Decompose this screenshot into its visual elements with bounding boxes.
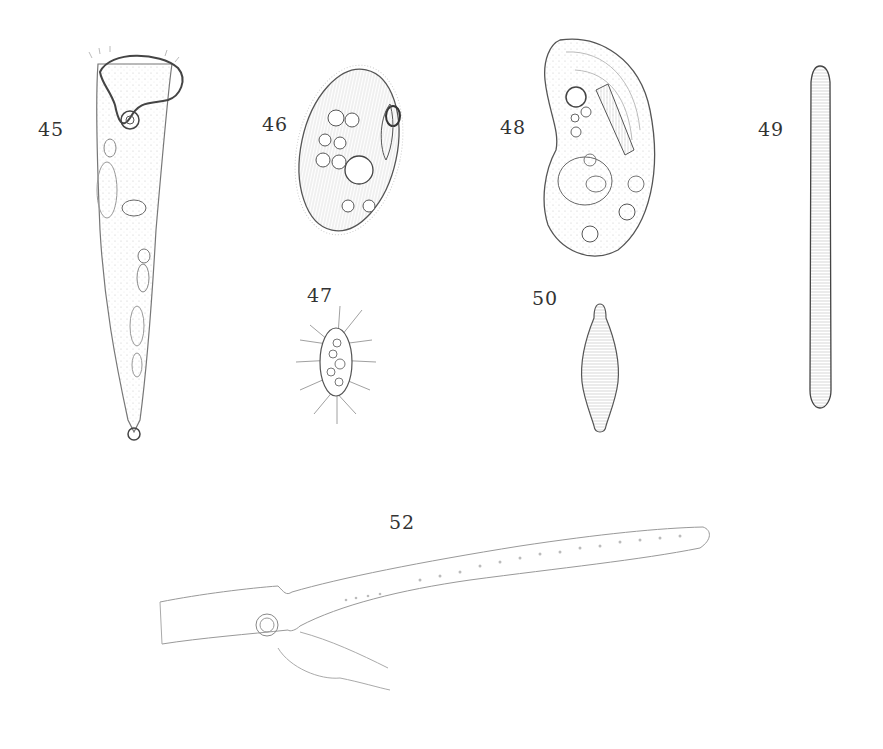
figure-46-oval-ciliate — [280, 55, 417, 245]
figure-49-needle-diatom — [810, 66, 831, 408]
figure-52-elongate-larva — [160, 527, 709, 690]
figure-50-spindle-cell — [582, 304, 619, 432]
figure-48-kidney-ciliate — [544, 39, 654, 256]
figure-45-stentor — [89, 46, 183, 440]
figure-47-spiny-cell — [296, 306, 376, 424]
